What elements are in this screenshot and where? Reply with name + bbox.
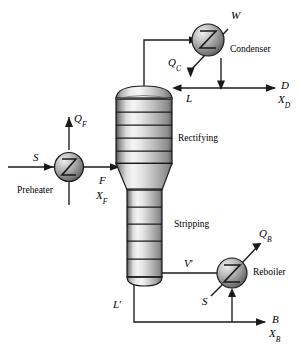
preheater-label: Preheater — [17, 186, 53, 196]
condenser-unit — [192, 24, 224, 56]
boilup-label: V′ — [184, 258, 193, 269]
column-bottom-dome — [127, 277, 162, 286]
feed-composition-subscript: F — [103, 197, 108, 206]
arrow-steam-preheater — [44, 163, 54, 170]
reboiler-steam-label: S — [202, 296, 208, 307]
bottoms-composition-symbol: X — [269, 327, 276, 339]
bottoms-composition-subscript: B — [276, 335, 281, 344]
preheater-duty-symbol: Q — [74, 112, 82, 124]
bottoms-liquid-prime: ′ — [119, 298, 121, 310]
distillate-label: D — [281, 80, 289, 91]
reboiler-duty-subscript: B — [267, 235, 272, 244]
distillation-column-vessel — [116, 86, 172, 286]
distillate-composition-label: XD — [278, 94, 290, 108]
preheater-duty-subscript: F — [82, 120, 87, 129]
stripping-section-body — [127, 189, 162, 277]
arrow-bottoms — [256, 318, 266, 326]
reboiler-label: Reboiler — [253, 268, 286, 278]
arrow-reflux — [172, 84, 182, 92]
bottoms-label: B — [272, 314, 279, 325]
arrow-condenser-duty — [187, 68, 195, 78]
distillation-column-diagram: W Condenser QC L D XD Rectifying QF S Pr… — [0, 0, 301, 345]
bottoms-composition-label: XB — [269, 328, 280, 342]
cooling-water-label: W — [231, 10, 240, 21]
bottoms-liquid-line — [134, 283, 265, 322]
rectifying-section-body — [116, 98, 172, 164]
feed-composition-symbol: X — [96, 189, 103, 201]
column-reducer — [116, 163, 172, 190]
feed-composition-label: XF — [96, 190, 107, 204]
distillate-composition-symbol: X — [278, 93, 285, 105]
boilup-prime: ′ — [191, 257, 193, 269]
reboiler-duty-symbol: Q — [259, 227, 267, 239]
condenser-duty-subscript: C — [176, 64, 181, 73]
arrow-reboiler-feed — [228, 288, 236, 297]
rectifying-section-label: Rectifying — [178, 134, 218, 144]
arrow-preheater-duty — [65, 117, 73, 127]
reboiler-duty-label: QB — [259, 228, 272, 242]
reboiler-unit — [217, 258, 247, 288]
condenser-duty-symbol: Q — [168, 56, 176, 68]
condenser-label: Condenser — [230, 45, 271, 55]
preheater-steam-label: S — [33, 152, 39, 163]
preheater-duty-label: QF — [74, 113, 87, 127]
stripping-section-label: Stripping — [174, 220, 209, 230]
feed-label: F — [99, 175, 106, 186]
bottoms-liquid-label: L′ — [113, 299, 122, 310]
boilup-symbol: V — [184, 257, 191, 269]
distillate-composition-subscript: D — [285, 101, 290, 110]
preheater-unit — [55, 153, 84, 182]
arrow-distillate — [266, 84, 276, 92]
reflux-label: L — [186, 93, 192, 104]
condenser-duty-label: QC — [168, 57, 181, 71]
